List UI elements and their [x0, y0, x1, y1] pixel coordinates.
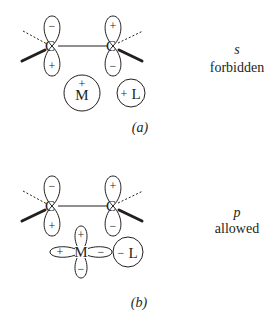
left-carbon-top-sign: − [49, 19, 56, 33]
right-carbon-top-sign: + [110, 19, 117, 33]
symmetry-label-a: s [234, 42, 240, 57]
ligand-label: L [131, 86, 140, 102]
right-carbon-bottom-sign: − [110, 219, 117, 233]
wedge-bond-right [119, 210, 142, 221]
wedge-bond-left [22, 50, 45, 61]
ligand-sign: + [121, 87, 128, 101]
dashed-bond-right [118, 31, 143, 43]
ligand-label: L [128, 245, 137, 261]
panel-a: − + C + − C + M + L (a) s forbidden [22, 16, 264, 136]
panel-b: − + C + − C + − + − M − L (b) p allowed [22, 176, 259, 311]
left-carbon-bottom-sign: + [49, 219, 56, 233]
wedge-bond-right [119, 50, 142, 61]
dashed-bond-left [23, 31, 47, 44]
right-carbon-label: C [106, 198, 116, 214]
left-carbon-label: C [45, 198, 55, 214]
ligand-sign: − [118, 246, 125, 260]
orbital-diagram: − + C + − C + M + L (a) s forbidden − + … [0, 0, 278, 317]
result-label-a: forbidden [210, 60, 264, 75]
metal-left-sign: + [57, 245, 64, 259]
dashed-bond-left [23, 191, 47, 204]
symmetry-label-b: p [233, 205, 241, 220]
left-carbon-top-sign: − [49, 179, 56, 193]
right-carbon-bottom-sign: − [110, 59, 117, 73]
dashed-bond-right [118, 191, 143, 203]
metal-label: M [75, 87, 88, 103]
metal-label: M [74, 244, 87, 260]
metal-top-sign: + [78, 228, 85, 242]
metal-right-sign: − [98, 245, 105, 259]
metal-bottom-sign: − [78, 262, 85, 276]
right-carbon-label: C [106, 38, 116, 54]
result-label-b: allowed [215, 221, 259, 236]
right-carbon-top-sign: + [110, 179, 117, 193]
left-carbon-label: C [45, 38, 55, 54]
wedge-bond-left [22, 210, 45, 221]
caption-b: (b) [131, 295, 148, 311]
caption-a: (a) [132, 120, 149, 136]
left-carbon-bottom-sign: + [49, 59, 56, 73]
